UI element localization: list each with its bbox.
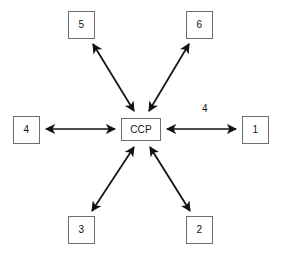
arrow-ccp-to-5 bbox=[93, 44, 134, 111]
node-label-3: 3 bbox=[79, 225, 85, 235]
node-label-4: 4 bbox=[24, 125, 30, 135]
node-box-3[interactable]: 3 bbox=[68, 216, 95, 244]
node-box-5[interactable]: 5 bbox=[68, 11, 95, 39]
node-label-1: 1 bbox=[253, 125, 259, 135]
diagram-canvas: 5 6 4 1 3 2 CCP 4 bbox=[0, 0, 282, 255]
node-box-1[interactable]: 1 bbox=[242, 116, 269, 144]
edge-label-right: 4 bbox=[202, 104, 208, 114]
node-box-4[interactable]: 4 bbox=[13, 116, 40, 144]
node-box-ccp[interactable]: CCP bbox=[121, 118, 161, 141]
arrow-ccp-to-6 bbox=[149, 44, 189, 111]
node-label-5: 5 bbox=[79, 20, 85, 30]
node-label-6: 6 bbox=[197, 20, 203, 30]
arrow-ccp-to-3 bbox=[92, 147, 134, 211]
node-box-2[interactable]: 2 bbox=[186, 216, 213, 244]
arrow-ccp-to-2 bbox=[150, 147, 190, 211]
node-label-ccp: CCP bbox=[130, 125, 152, 135]
node-box-6[interactable]: 6 bbox=[186, 11, 213, 39]
node-label-2: 2 bbox=[197, 225, 203, 235]
